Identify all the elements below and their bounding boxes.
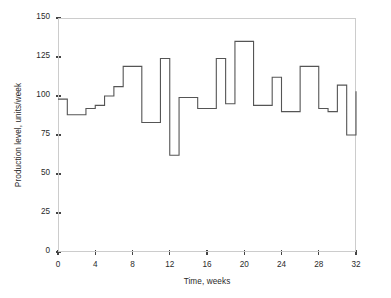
chart-figure: Production level, units/week Time, weeks… [0,0,391,298]
x-tick-label: 24 [267,260,297,269]
x-tick-label: 16 [192,260,222,269]
x-tick-label: 8 [118,260,148,269]
x-tick-label: 20 [229,260,259,269]
step-series-path [58,41,356,155]
plot-area [58,18,356,252]
x-tick-label: 12 [155,260,185,269]
y-tick-label: 100 [6,90,50,99]
y-tick-label: 150 [6,12,50,21]
y-tick-label: 125 [6,51,50,60]
x-tick-label: 28 [304,260,334,269]
y-tick-label: 25 [6,207,50,216]
x-tick-label: 4 [80,260,110,269]
step-series [58,18,356,252]
y-tick-label: 0 [6,246,50,255]
y-tick-label: 75 [6,129,50,138]
x-tick-label: 0 [43,260,73,269]
x-tick-label: 32 [341,260,371,269]
x-axis-label: Time, weeks [58,277,356,286]
y-tick-label: 50 [6,168,50,177]
